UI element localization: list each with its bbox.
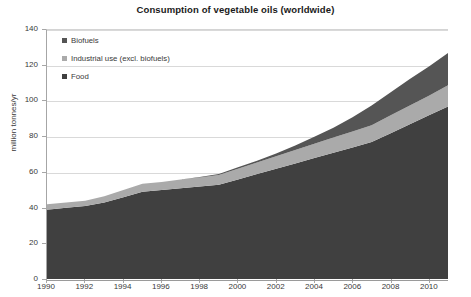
x-tick-label: 1996 (141, 282, 181, 291)
x-tick-label: 2008 (371, 282, 411, 291)
chart-legend: BiofuelsIndustrial use (excl. biofuels)F… (62, 36, 170, 90)
legend-swatch-icon (62, 56, 67, 61)
x-tick-label: 1998 (179, 282, 219, 291)
x-tick-label: 2004 (294, 282, 334, 291)
x-tick-label: 2002 (256, 282, 296, 291)
legend-label: Biofuels (71, 36, 99, 45)
gridline (47, 280, 448, 281)
chart-title: Consumption of vegetable oils (worldwide… (0, 4, 471, 15)
legend-label: Industrial use (excl. biofuels) (71, 54, 170, 63)
y-tick-label: 20 (4, 239, 38, 247)
y-tick-label: 60 (4, 168, 38, 176)
x-tick-label: 2010 (409, 282, 449, 291)
legend-item: Industrial use (excl. biofuels) (62, 54, 170, 63)
x-tick-label: 2000 (217, 282, 257, 291)
y-tick-label: 40 (4, 204, 38, 212)
x-tick-label: 1990 (26, 282, 66, 291)
x-tick-label: 2006 (332, 282, 372, 291)
chart-container: Consumption of vegetable oils (worldwide… (0, 0, 471, 297)
legend-item: Food (62, 72, 170, 81)
legend-item: Biofuels (62, 36, 170, 45)
y-tick-label: 140 (4, 25, 38, 33)
legend-swatch-icon (62, 74, 67, 79)
y-tick-label: 120 (4, 61, 38, 69)
x-tick-label: 1994 (103, 282, 143, 291)
legend-label: Food (71, 72, 89, 81)
legend-swatch-icon (62, 38, 67, 43)
y-tick-label: 100 (4, 96, 38, 104)
x-tick-label: 1992 (64, 282, 104, 291)
y-tick-label: 80 (4, 132, 38, 140)
